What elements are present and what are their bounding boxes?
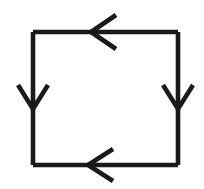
diagram-canvas [0,0,204,189]
diagram-background [0,0,204,189]
square-arrow-cycle-diagram [0,0,204,189]
